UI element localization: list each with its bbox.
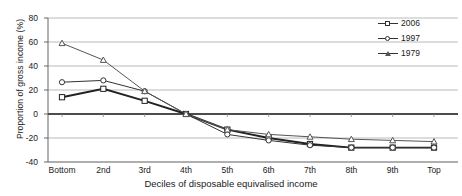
x-axis-tick-label: 6th <box>263 165 275 175</box>
x-axis-title: Deciles of disposable equivalised income <box>0 178 462 189</box>
x-axis-tick-label: 8th <box>345 165 357 175</box>
legend-item-2006[interactable]: 2006 <box>378 16 460 31</box>
legend-label: 1979 <box>401 49 420 58</box>
x-axis-tick-label: 7th <box>304 165 316 175</box>
legend-label: 1997 <box>401 34 420 43</box>
legend-label: 2006 <box>401 19 420 28</box>
chart-legend: 200619971979 <box>378 16 460 61</box>
x-axis-tick-label: 3rd <box>139 165 151 175</box>
marker-2006 <box>142 98 147 103</box>
chart-figure: Proportion of gross income (%) 806040200… <box>0 0 462 196</box>
marker-1979 <box>59 40 65 45</box>
marker-1997 <box>59 80 64 85</box>
marker-1997 <box>101 78 106 83</box>
x-axis-tick-label: Top <box>427 165 441 175</box>
legend-swatch-square-icon <box>378 19 398 29</box>
marker-1997 <box>307 143 312 148</box>
x-axis-tick-label: 9th <box>387 165 399 175</box>
legend-item-1979[interactable]: 1979 <box>378 46 460 61</box>
x-axis-tick-label: 4th <box>180 165 192 175</box>
marker-1997 <box>225 132 230 137</box>
x-axis-tick-label: 5th <box>221 165 233 175</box>
y-axis-tick-label: 60 <box>12 37 38 47</box>
marker-1979 <box>100 57 106 62</box>
marker-2006 <box>59 95 64 100</box>
x-axis-tick-label: 2nd <box>96 165 110 175</box>
marker-1997 <box>390 145 395 150</box>
x-axis-tick-label: Bottom <box>49 165 76 175</box>
y-axis-tick-label: 0 <box>12 109 38 119</box>
y-axis-tick-label: 40 <box>12 61 38 71</box>
y-axis-tick-label: -20 <box>12 133 38 143</box>
marker-2006 <box>101 86 106 91</box>
marker-1997 <box>431 145 436 150</box>
marker-1997 <box>349 145 354 150</box>
legend-swatch-triangle-icon <box>378 49 398 59</box>
legend-swatch-circle-icon <box>378 34 398 44</box>
marker-1997 <box>266 138 271 143</box>
legend-item-1997[interactable]: 1997 <box>378 31 460 46</box>
y-axis-tick-label: 20 <box>12 85 38 95</box>
y-axis-tick-label: 80 <box>12 13 38 23</box>
series-line-2006 <box>62 89 434 148</box>
